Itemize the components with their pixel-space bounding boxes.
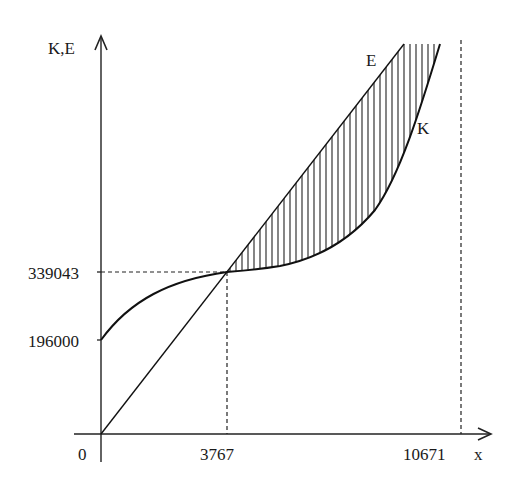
x-tick-label-3767: 3767	[200, 445, 235, 464]
y-tick-label-196000: 196000	[28, 332, 79, 351]
x-tick-label-10671: 10671	[403, 445, 446, 464]
curve-k	[101, 44, 440, 340]
curve-e-label: E	[366, 51, 376, 70]
break-even-chart: K,E 339043 196000 0 3767 10671 x E K	[0, 0, 517, 488]
y-axis-label: K,E	[48, 39, 75, 58]
origin-label: 0	[78, 445, 87, 464]
curve-k-label: K	[417, 119, 430, 138]
hatched-region	[230, 30, 440, 300]
y-tick-label-339043: 339043	[28, 264, 79, 283]
x-axis-label: x	[474, 445, 483, 464]
curve-e	[101, 44, 404, 434]
